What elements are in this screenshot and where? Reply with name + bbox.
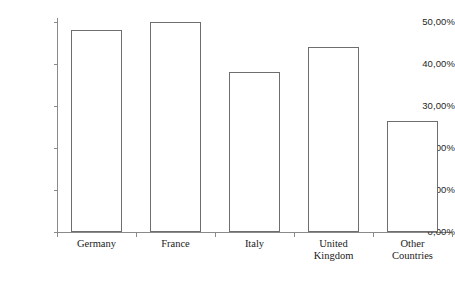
y-tick-label-40: 40,00% bbox=[407, 59, 455, 69]
bar-italy bbox=[229, 72, 280, 232]
x-tick-mark-2 bbox=[215, 232, 216, 237]
x-category-label-other-countries: Other Countries bbox=[373, 238, 452, 262]
bar-chart: 50,00% 40,00% 30,00% 20,00% 10,00% 0,00%… bbox=[0, 0, 455, 283]
x-axis-line bbox=[57, 232, 452, 233]
x-tick-mark-5 bbox=[452, 232, 453, 237]
x-category-label-italy: Italy bbox=[215, 238, 294, 250]
bar-other-countries bbox=[387, 121, 438, 232]
y-tick-label-30: 30,00% bbox=[407, 101, 455, 111]
bar-united-kingdom bbox=[308, 47, 359, 232]
x-tick-mark-1 bbox=[136, 232, 137, 237]
x-tick-mark-4 bbox=[373, 232, 374, 237]
y-tick-mark-20 bbox=[54, 148, 58, 149]
y-tick-label-50: 50,00% bbox=[407, 17, 455, 27]
y-tick-mark-30 bbox=[54, 106, 58, 107]
x-tick-mark-3 bbox=[294, 232, 295, 237]
x-category-label-france: France bbox=[136, 238, 215, 250]
x-category-label-united-kingdom: United Kingdom bbox=[294, 238, 373, 262]
bar-germany bbox=[71, 30, 122, 232]
x-tick-mark-0 bbox=[57, 232, 58, 237]
bar-france bbox=[150, 22, 201, 232]
y-tick-mark-40 bbox=[54, 64, 58, 65]
x-category-label-germany: Germany bbox=[57, 238, 136, 250]
y-tick-mark-10 bbox=[54, 190, 58, 191]
y-axis-line bbox=[57, 18, 58, 233]
y-tick-mark-50 bbox=[54, 22, 58, 23]
